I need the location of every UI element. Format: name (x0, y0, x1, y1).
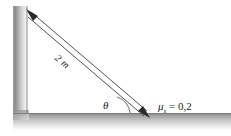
horizontal-ground (13, 113, 231, 130)
vertical-wall (13, 6, 27, 120)
physics-diagram: 2 m θ μs = 0,2 (0, 0, 231, 136)
diagram-canvas (0, 0, 231, 136)
angle-arc (117, 97, 130, 113)
friction-coefficient-label: μs = 0,2 (158, 100, 192, 115)
beam-arrowhead-top (26, 9, 38, 21)
inclined-beam (26, 9, 150, 118)
beam-edge-upper (31, 12, 147, 111)
angle-theta-label: θ (103, 99, 108, 111)
friction-operator: = (166, 100, 178, 112)
beam-edge-lower (28, 17, 144, 116)
friction-value: 0,2 (178, 100, 192, 112)
